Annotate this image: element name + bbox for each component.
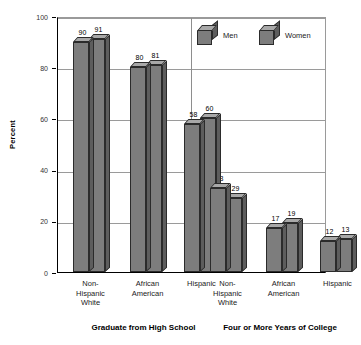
y-tick-mark [52, 17, 56, 18]
y-tick-label: 80 [26, 65, 48, 72]
y-tick-mark [52, 68, 56, 69]
legend-cube-side [274, 20, 280, 40]
category-label: Non- Hispanic White [64, 279, 118, 308]
group-title: Four or More Years of College [195, 323, 361, 332]
y-tick-label: 100 [26, 14, 48, 21]
legend-label: Women [285, 31, 311, 40]
bar [73, 42, 89, 272]
bar-side-face [162, 60, 167, 272]
bar-front-face [73, 42, 89, 272]
y-tick-mark [52, 273, 56, 274]
bar-front-face [320, 241, 336, 272]
bar-value-label: 60 [199, 105, 220, 112]
y-tick-mark [52, 119, 56, 120]
bar-side-face [336, 237, 341, 272]
bar-front-face [184, 124, 200, 272]
bar-side-face [105, 35, 110, 272]
y-tick-mark [52, 171, 56, 172]
gridline [58, 18, 325, 19]
bar-value-label: 91 [88, 26, 109, 33]
category-label: Non- Hispanic White [201, 279, 255, 308]
y-tick-label: 60 [26, 116, 48, 123]
bar-front-face [266, 228, 282, 272]
y-tick-label: 40 [26, 167, 48, 174]
bar-front-face [210, 188, 226, 272]
bar-side-face [242, 193, 247, 272]
y-tick-mark [52, 222, 56, 223]
legend-cube-icon [259, 25, 279, 45]
bar [130, 67, 146, 272]
bar-side-face [298, 219, 303, 272]
bar [320, 241, 336, 272]
y-tick-label: 20 [26, 218, 48, 225]
legend-cube-front [197, 30, 212, 45]
y-tick-label: 0 [26, 270, 48, 277]
legend: MenWomen [197, 20, 321, 52]
plot-area [57, 17, 326, 273]
legend-label: Men [223, 31, 238, 40]
legend-cube-icon [197, 25, 217, 45]
bar-value-label: 81 [145, 52, 166, 59]
bar-value-label: 19 [281, 210, 302, 217]
bar [210, 188, 226, 272]
bar-side-face [200, 119, 205, 272]
legend-cube-front [259, 30, 274, 45]
bar-side-face [226, 183, 231, 272]
category-label: African American [121, 279, 175, 298]
category-label: African American [257, 279, 311, 298]
bar [184, 124, 200, 272]
bar [266, 228, 282, 272]
bar-side-face [352, 234, 357, 272]
y-axis-title: Percent [8, 105, 17, 165]
bar-value-label: 13 [335, 226, 356, 233]
bar-side-face [282, 224, 287, 272]
bar-side-face [146, 63, 151, 272]
bar-front-face [130, 67, 146, 272]
bar-side-face [89, 37, 94, 272]
category-label: Hispanic [311, 279, 361, 289]
legend-cube-side [212, 20, 218, 40]
